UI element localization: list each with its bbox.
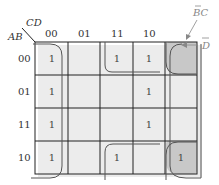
col-var-label: CD bbox=[26, 17, 42, 28]
shaded-cell-top-right bbox=[166, 42, 197, 75]
bc-arrow-line bbox=[188, 20, 197, 36]
cell-r0-c0: 1 bbox=[49, 53, 55, 64]
cell-r3-c2: 1 bbox=[114, 152, 120, 163]
row-label-01: 01 bbox=[18, 86, 31, 97]
row-var-label: AB bbox=[7, 31, 23, 42]
cell-r1-c0: 1 bbox=[49, 86, 55, 97]
col-label-01: 01 bbox=[78, 28, 91, 39]
karnaugh-map: CD AB 00 01 11 10 00 01 11 10 1 1 1 1 1 … bbox=[0, 0, 219, 185]
cell-r2-c0: 1 bbox=[49, 119, 55, 130]
d-annotation-label: D bbox=[201, 40, 210, 51]
cell-r0-c3: 1 bbox=[146, 53, 152, 64]
cell-r1-c3: 1 bbox=[146, 86, 152, 97]
cell-r2-c3: 1 bbox=[146, 119, 152, 130]
row-label-10: 10 bbox=[18, 152, 31, 163]
col-label-11: 11 bbox=[111, 28, 124, 39]
col-label-10: 10 bbox=[143, 28, 156, 39]
row-label-00: 00 bbox=[18, 53, 31, 64]
cell-r0-c2: 1 bbox=[114, 53, 120, 64]
header-diagonal bbox=[22, 28, 35, 42]
cell-r3-c0: 1 bbox=[49, 152, 55, 163]
row-label-11: 11 bbox=[18, 119, 31, 130]
col-label-00: 00 bbox=[45, 28, 58, 39]
bc-annotation-label: BC bbox=[192, 7, 209, 18]
cell-r3-c3: 1 bbox=[178, 152, 184, 163]
